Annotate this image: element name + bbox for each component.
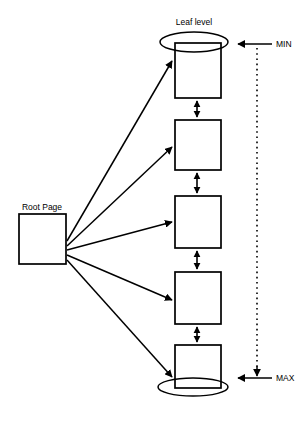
leaf-node-2[interactable]	[175, 120, 221, 170]
root-page-box[interactable]	[19, 214, 66, 264]
leaf-nodes-group	[175, 43, 221, 388]
root-page-node[interactable]: Root Page	[19, 202, 66, 264]
leaf-node-4[interactable]	[175, 272, 221, 324]
root-page-label: Root Page	[22, 202, 62, 212]
leaf-level-label: Leaf level	[176, 17, 212, 27]
max-label: MAX	[276, 373, 295, 383]
root-to-leaf-arrows	[67, 61, 172, 377]
leaf-node-3[interactable]	[175, 196, 221, 248]
max-marker: MAX	[238, 373, 295, 383]
min-marker: MIN	[238, 39, 292, 49]
min-label: MIN	[276, 39, 292, 49]
root-to-leaf-arrow-2	[67, 147, 172, 246]
root-to-leaf-arrow-3	[67, 222, 172, 250]
diagram-root: Leaf level Root Page	[0, 0, 307, 427]
root-to-leaf-arrow-1	[67, 61, 172, 241]
b-tree-diagram-canvas: Leaf level Root Page	[0, 0, 307, 427]
leaf-node-5[interactable]	[175, 345, 221, 388]
